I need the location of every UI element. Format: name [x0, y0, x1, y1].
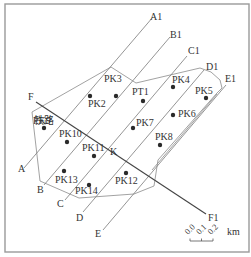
point-pk10-marker: [65, 140, 69, 144]
survey-map: A1 A B1 B C1 C D1 D E1 E F F1 铁路 K PK2 P…: [0, 0, 251, 257]
point-pk4-label: PK4: [172, 74, 190, 85]
point-pk6-label: PK6: [178, 108, 196, 119]
label-d1: D1: [206, 61, 218, 72]
point-pk11-marker: [92, 154, 96, 158]
point-pt1-label: PT1: [132, 86, 149, 97]
survey-line-b: [44, 37, 170, 185]
label-k: K: [110, 146, 118, 157]
label-a: A: [18, 163, 26, 174]
scale-bar: 0.0 0.1 0.2 km: [182, 222, 240, 241]
label-c: C: [57, 198, 64, 209]
point-pk5-marker: [204, 96, 208, 100]
point-pk10-label: PK10: [59, 128, 82, 139]
label-f1: F1: [208, 212, 219, 223]
scale-label-2: 0.2: [205, 222, 220, 237]
label-b1: B1: [170, 29, 182, 40]
label-e: E: [95, 228, 101, 239]
point-pk5-label: PK5: [195, 85, 213, 96]
point-pk9-label: PK9: [33, 115, 51, 126]
point-pk7-label: PK7: [136, 117, 154, 128]
survey-line-e: [103, 85, 226, 230]
scale-unit: km: [227, 226, 240, 237]
point-pk11-label: PK11: [82, 142, 104, 153]
point-pk3-label: PK3: [104, 73, 122, 84]
label-f: F: [28, 91, 34, 102]
label-b: B: [37, 184, 44, 195]
point-pk8-marker: [158, 143, 162, 147]
point-pk3-marker: [114, 94, 118, 98]
point-pk2-label: PK2: [88, 98, 106, 109]
point-pk13-label: PK13: [55, 174, 78, 185]
point-pt1-marker: [141, 99, 145, 103]
point-pk14-label: PK14: [75, 185, 98, 196]
point-pk6-marker: [171, 113, 175, 117]
point-pk7-marker: [131, 126, 135, 130]
point-pk8-label: PK8: [155, 131, 173, 142]
label-e1: E1: [225, 73, 236, 84]
point-pk13-marker: [62, 169, 66, 173]
point-pk9-marker: [42, 126, 46, 130]
point-pk4-marker: [171, 85, 175, 89]
label-d: D: [76, 212, 83, 223]
label-c1: C1: [188, 45, 200, 56]
label-a1: A1: [150, 11, 162, 22]
point-pk12-label: PK12: [115, 175, 138, 186]
